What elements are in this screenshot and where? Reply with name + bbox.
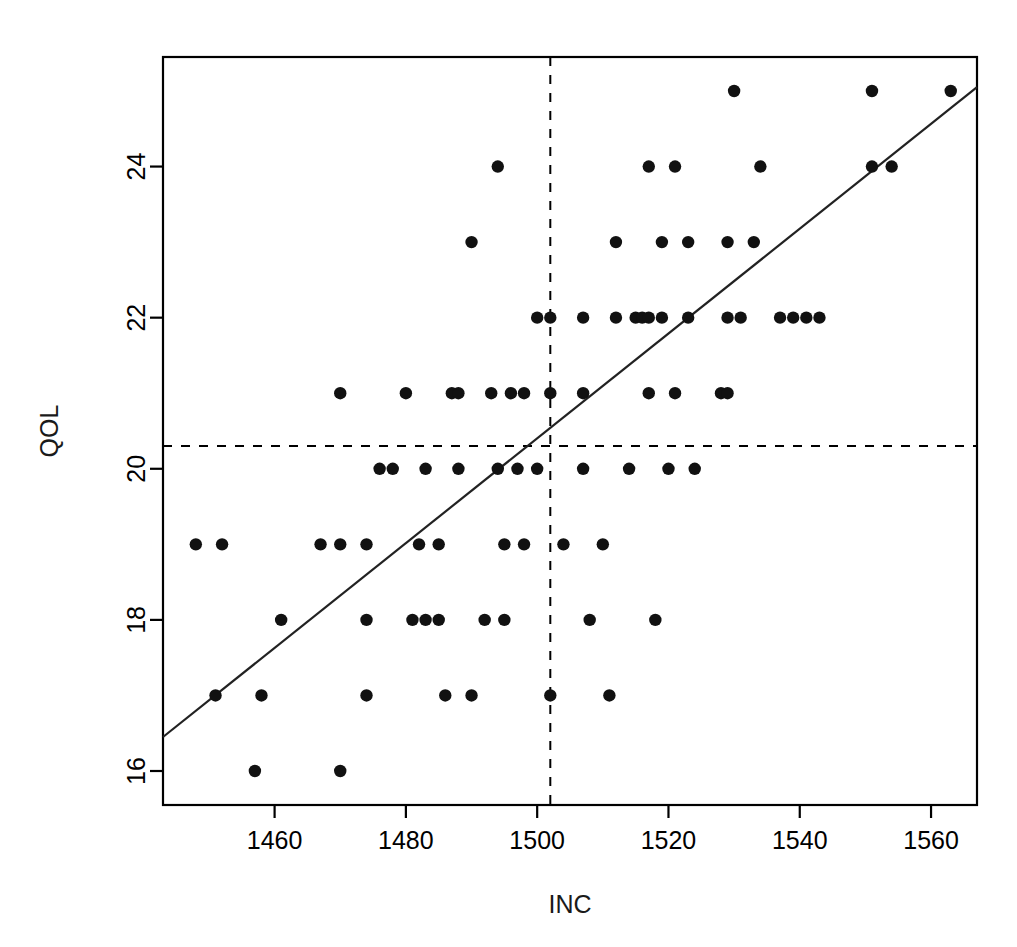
data-point xyxy=(334,538,346,550)
data-point xyxy=(603,689,615,701)
data-point xyxy=(478,614,490,626)
data-point xyxy=(597,538,609,550)
data-point xyxy=(656,311,668,323)
x-tick-label: 1520 xyxy=(641,826,697,854)
data-point xyxy=(774,311,786,323)
data-point xyxy=(623,463,635,475)
data-point xyxy=(531,463,543,475)
data-point xyxy=(373,463,385,475)
x-tick-label: 1560 xyxy=(903,826,959,854)
data-point xyxy=(255,689,267,701)
y-tick-label: 16 xyxy=(122,757,150,785)
data-point xyxy=(439,689,451,701)
data-point xyxy=(643,311,655,323)
data-point xyxy=(518,538,530,550)
data-point xyxy=(682,236,694,248)
data-point xyxy=(748,236,760,248)
data-point xyxy=(452,387,464,399)
data-point xyxy=(492,463,504,475)
data-point xyxy=(531,311,543,323)
data-point xyxy=(800,311,812,323)
data-point xyxy=(643,387,655,399)
data-point xyxy=(754,160,766,172)
data-point xyxy=(433,614,445,626)
data-point xyxy=(866,85,878,97)
data-point xyxy=(728,85,740,97)
data-point xyxy=(334,765,346,777)
data-point xyxy=(577,311,589,323)
y-tick-label: 24 xyxy=(122,153,150,181)
data-point xyxy=(485,387,497,399)
data-point xyxy=(669,387,681,399)
data-point xyxy=(387,463,399,475)
data-point xyxy=(787,311,799,323)
data-point xyxy=(734,311,746,323)
data-point xyxy=(433,538,445,550)
data-point xyxy=(465,236,477,248)
data-point xyxy=(419,614,431,626)
y-tick-label: 18 xyxy=(122,606,150,634)
data-point xyxy=(721,311,733,323)
data-point xyxy=(669,160,681,172)
data-point xyxy=(465,689,477,701)
data-point xyxy=(452,463,464,475)
data-point xyxy=(610,311,622,323)
data-point xyxy=(216,538,228,550)
data-point xyxy=(544,387,556,399)
x-tick-label: 1480 xyxy=(378,826,434,854)
data-point xyxy=(360,538,372,550)
data-point xyxy=(682,311,694,323)
data-point xyxy=(577,463,589,475)
data-point xyxy=(544,689,556,701)
data-point xyxy=(249,765,261,777)
data-point xyxy=(511,463,523,475)
data-point xyxy=(813,311,825,323)
data-point xyxy=(643,160,655,172)
data-point xyxy=(498,614,510,626)
x-tick-label: 1500 xyxy=(509,826,565,854)
data-point xyxy=(577,387,589,399)
plot-canvas: 1460148015001520154015601618202224 QOL I… xyxy=(0,0,1017,947)
data-point xyxy=(505,387,517,399)
data-point xyxy=(610,236,622,248)
data-point xyxy=(721,387,733,399)
data-point xyxy=(518,387,530,399)
data-point xyxy=(945,85,957,97)
data-point xyxy=(406,614,418,626)
data-point xyxy=(314,538,326,550)
data-point xyxy=(557,538,569,550)
data-point xyxy=(492,160,504,172)
data-point xyxy=(649,614,661,626)
x-axis-label: INC xyxy=(548,890,591,918)
x-tick-label: 1460 xyxy=(247,826,303,854)
y-tick-label: 20 xyxy=(122,455,150,483)
data-point xyxy=(419,463,431,475)
data-point xyxy=(209,689,221,701)
data-point xyxy=(360,689,372,701)
data-point xyxy=(656,236,668,248)
data-point xyxy=(360,614,372,626)
x-tick-label: 1540 xyxy=(772,826,828,854)
data-point xyxy=(885,160,897,172)
data-point xyxy=(498,538,510,550)
data-point xyxy=(544,311,556,323)
data-point xyxy=(334,387,346,399)
data-point xyxy=(583,614,595,626)
data-point xyxy=(662,463,674,475)
scatter-plot-figure: 1460148015001520154015601618202224 QOL I… xyxy=(0,0,1017,947)
data-point xyxy=(190,538,202,550)
data-point xyxy=(721,236,733,248)
data-point xyxy=(400,387,412,399)
data-point xyxy=(275,614,287,626)
data-point xyxy=(413,538,425,550)
data-point xyxy=(689,463,701,475)
data-point xyxy=(866,160,878,172)
y-axis-label: QOL xyxy=(35,405,63,458)
y-tick-label: 22 xyxy=(122,304,150,332)
